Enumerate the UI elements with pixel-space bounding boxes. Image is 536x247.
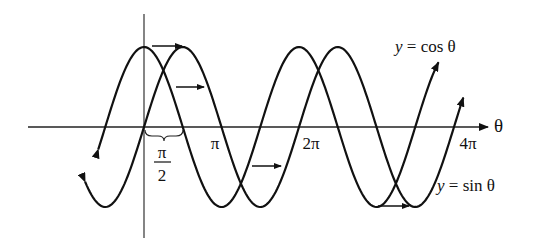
theta-axis-label: θ [494,115,503,136]
sin-label: y = sin θ [435,176,495,195]
phase-shift-brace [145,130,183,141]
tick-pi: π [211,134,220,153]
tick-4pi: 4π [459,134,477,153]
tick-pi-over-2-denominator: 2 [158,166,167,185]
tick-pi-over-2-numerator: π [158,143,167,162]
tick-2pi: 2π [302,134,320,153]
cos-label: y = cos θ [393,37,456,56]
sine-cosine-chart: π 2 π 2π 4π θ y = cos θ y = sin θ [0,0,536,247]
